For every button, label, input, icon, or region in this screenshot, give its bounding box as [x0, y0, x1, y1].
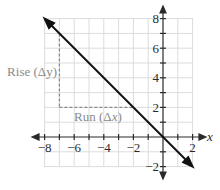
x-tick-label: −2 [126, 140, 140, 155]
y-tick-label: 2 [153, 100, 160, 115]
coordinate-plane: −8 −6 −4 −2 2 8 6 4 2 −2 x Rise (Δy) Run… [0, 0, 220, 190]
y-axis-up-arrow-icon [160, 6, 166, 13]
x-tick-label: −6 [67, 140, 81, 155]
x-axis-right-arrow-icon [199, 134, 206, 140]
y-tick-label: 8 [153, 11, 160, 26]
y-tick-label: 6 [153, 41, 160, 56]
x-axis [32, 134, 206, 140]
x-axis-label: x [206, 129, 213, 144]
y-axis [160, 6, 166, 179]
rise-label: Rise (Δy) [7, 64, 57, 79]
y-axis-down-arrow-icon [160, 172, 166, 179]
run-label-suffix: ) [117, 109, 121, 124]
run-label: Run (Δx) [74, 109, 122, 124]
y-tick-label: 4 [153, 70, 160, 85]
y-tick-label: −2 [145, 159, 159, 174]
run-label-prefix: Run (Δ [74, 109, 112, 124]
x-tick-label: −4 [97, 140, 111, 155]
x-tick-label: 2 [189, 140, 196, 155]
x-tick-label: −8 [38, 140, 52, 155]
